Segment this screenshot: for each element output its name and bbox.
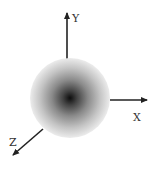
x-axis-label: X [133, 111, 141, 124]
z-axis-label: Z [9, 136, 17, 149]
coordinate-diagram: Y X Z [0, 0, 158, 174]
shaded-sphere [30, 58, 110, 138]
y-axis-label: Y [71, 12, 80, 25]
z-axis [13, 129, 43, 155]
